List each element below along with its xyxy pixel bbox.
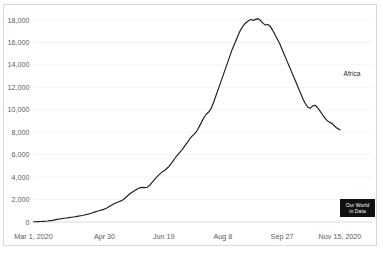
logo-line-2: in Data [340,208,375,214]
y-axis-tick-labels: 02,0004,0006,0008,00010,00012,00014,0001… [8,16,30,227]
y-tick-label: 2,000 [12,195,30,204]
y-tick-label: 6,000 [12,150,30,159]
data-series-group [34,19,341,222]
y-tick-label: 14,000 [8,60,30,69]
y-tick-label: 4,000 [12,173,30,182]
line-chart-plot: 02,0004,0006,0008,00010,00012,00014,0001… [0,0,383,254]
series-label-africa: Africa [344,70,361,77]
series-line-africa [34,19,341,222]
y-tick-label: 12,000 [8,83,30,92]
chart-root: 02,0004,0006,0008,00010,00012,00014,0001… [0,0,383,254]
x-tick-label: Apr 30 [94,232,115,241]
y-tick-label: 0 [26,218,30,227]
y-tick-label: 10,000 [8,105,30,114]
x-tick-label: Mar 1, 2020 [14,232,52,241]
y-tick-label: 8,000 [12,128,30,137]
x-axis-tick-labels: Mar 1, 2020Apr 30Jun 19Aug 8Sep 27Nov 15… [14,232,361,241]
x-tick-label: Jun 19 [153,232,175,241]
y-tick-label: 18,000 [8,16,30,25]
x-tick-label: Sep 27 [271,232,294,241]
x-tick-label: Aug 8 [213,232,232,241]
y-tick-label: 16,000 [8,38,30,47]
our-world-in-data-logo[interactable]: Our World in Data [340,199,375,217]
x-tick-label: Nov 15, 2020 [319,232,362,241]
series-end-labels: Africa [344,70,361,77]
